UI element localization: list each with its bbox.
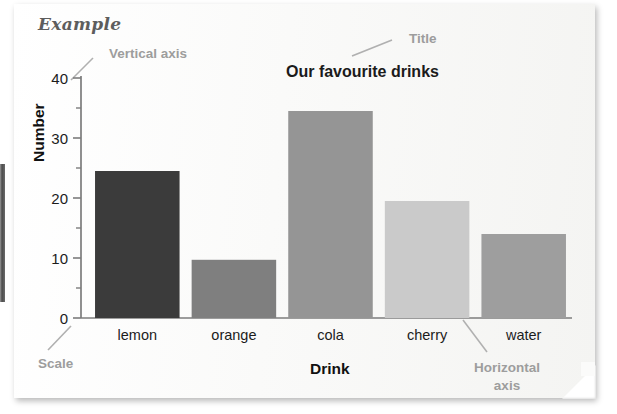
x-axis-category-label: cherry	[407, 327, 448, 343]
leader-line-vertical-axis	[71, 58, 93, 80]
y-axis-tick-label: 10	[51, 250, 68, 267]
y-axis-tick-label: 0	[60, 310, 68, 327]
y-axis-tick-label: 30	[51, 130, 68, 147]
leader-line-horizontal-axis	[463, 320, 487, 352]
bar-orange	[192, 260, 277, 318]
bar-cherry	[385, 201, 470, 318]
x-axis-category-label: orange	[211, 327, 256, 343]
y-axis-tick-label: 40	[51, 70, 68, 87]
leader-line-title	[352, 40, 392, 56]
x-axis-category-label: cola	[317, 327, 345, 343]
bar-lemon	[95, 171, 180, 318]
y-axis-tick-label: 20	[51, 190, 68, 207]
bar-water	[481, 234, 566, 318]
x-axis-category-label: water	[505, 327, 542, 343]
bar-cola	[288, 111, 373, 318]
x-axis-category-label: lemon	[118, 327, 158, 343]
bar-chart-plot: 010203040lemonorangecolacherrywater	[0, 0, 617, 414]
leader-line-scale	[48, 326, 71, 350]
